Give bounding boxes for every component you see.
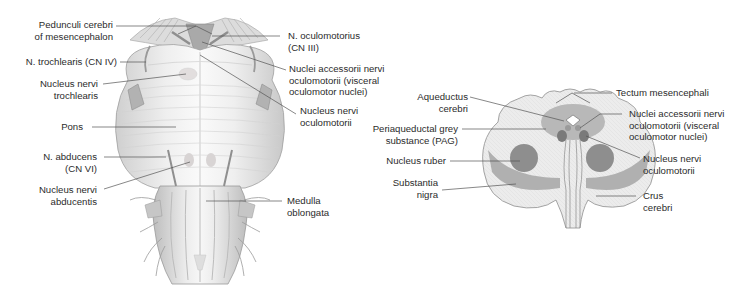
label-line: Nucleus nervi [40,78,98,90]
label-n-oculomotorius: N. oculomotorius (CN III) [288,30,360,53]
label-line: Nucleus ruber [386,155,446,167]
label-line: oculomotor nuclei) [629,131,724,143]
label-nuclei-accessorii-right: Nuclei accessorii nervi oculomotorii (vi… [629,108,724,143]
label-line: Aqueductus [417,91,468,103]
label-substantia-nigra: Substantia nigra [393,177,438,200]
label-line: Nucleus nervi [300,105,358,117]
label-n-trochlearis: N. trochlearis (CN IV) [26,56,117,68]
trochlear-nucleus-marker [179,68,197,80]
label-nucleus-ruber: Nucleus ruber [386,155,446,167]
label-line: oculomotorii (visceral [289,75,384,87]
label-line: Crus [643,190,672,202]
label-line: trochlearis [40,90,98,102]
label-line: oculomotor nuclei) [289,86,384,98]
label-nuclei-accessorii-left: Nuclei accessorii nervi oculomotorii (vi… [289,63,384,98]
label-line: N. abducens [43,151,97,163]
label-line: Tectum mesencephali [616,87,709,99]
label-n-abducens: N. abducens (CN VI) [43,151,97,174]
label-line: Pedunculi cerebri [35,19,113,31]
label-nucleus-abducentis: Nucleus nervi abducentis [39,184,97,207]
label-line: cerebri [417,103,468,115]
label-pag: Periaqueductal grey substance (PAG) [373,123,458,146]
label-pedunculi-cerebri: Pedunculi cerebri of mesencephalon [35,19,113,42]
label-line: Medulla [287,195,329,207]
label-line: Nuclei accessorii nervi [289,63,384,75]
abducens-nucleus-marker-right [206,153,216,167]
label-line: substance (PAG) [373,135,458,147]
label-line: (CN III) [288,42,360,54]
label-line: oculomotorii (visceral [629,120,724,132]
brainstem-illustration [116,18,285,284]
label-line: Periaqueductal grey [373,123,458,135]
label-line: Substantia [393,177,438,189]
oculomotor-nucleus-left [557,130,567,142]
label-line: Pons [61,121,83,133]
label-line: abducentis [39,196,97,208]
vestibulocochlear-left [145,200,162,218]
label-line: N. trochlearis (CN IV) [26,56,117,68]
abducens-nucleus-marker-left [184,153,194,167]
label-line: oblongata [287,207,329,219]
label-line: N. oculomotorius [288,30,360,42]
label-line: oculomotorii [300,117,358,129]
label-line: Nucleus nervi [39,184,97,196]
red-nucleus-right [586,144,614,172]
label-aqueductus-cerebri: Aqueductus cerebri [417,91,468,114]
label-medulla-oblongata: Medulla oblongata [287,195,329,218]
label-line: of mesencephalon [35,31,113,43]
label-nucleus-oculomotorii-right: Nucleus nervi oculomotorii [643,153,701,176]
label-line: cerebri [643,202,672,214]
label-pons: Pons [61,121,83,133]
label-line: (CN VI) [43,163,97,175]
label-line: oculomotorii [643,165,701,177]
anatomy-figure: Pedunculi cerebri of mesencephalon N. tr… [0,0,740,297]
label-crus-cerebri: Crus cerebri [643,190,672,213]
label-nucleus-trochlearis: Nucleus nervi trochlearis [40,78,98,101]
label-nucleus-oculomotorii-left: Nucleus nervi oculomotorii [300,105,358,128]
label-line: Nucleus nervi [643,153,701,165]
label-tectum-mesencephali: Tectum mesencephali [616,87,709,99]
label-line: Nuclei accessorii nervi [629,108,724,120]
oculomotor-nucleus-right [579,130,589,142]
red-nucleus-left [510,144,538,172]
vestibulocochlear-right [238,200,255,218]
illustration-canvas [0,0,740,297]
accessory-nucleus-left [565,125,571,131]
label-line: nigra [393,189,438,201]
